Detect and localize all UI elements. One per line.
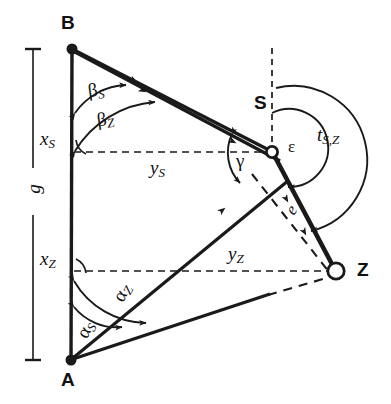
scale-bar-g <box>25 49 41 360</box>
label-y-s-sub: S <box>158 165 165 180</box>
label-beta-s: βS <box>86 78 105 104</box>
dashed-line-a-to-z-tail <box>268 277 330 295</box>
angle-arc-epsilon <box>272 109 328 187</box>
label-y-s: yS <box>150 157 165 181</box>
edge-A-to-Z <box>73 294 270 359</box>
label-x-s: xS <box>40 128 55 152</box>
label-x-z-sub: Z <box>48 256 55 271</box>
label-y-z-sub: Z <box>236 251 243 266</box>
label-beta-z: βZ <box>95 107 115 133</box>
point-marker-A <box>66 355 77 366</box>
point-label-a: A <box>61 369 75 391</box>
point-marker-B <box>67 44 78 55</box>
edge-A-to-S <box>73 180 289 358</box>
label-epsilon: ε <box>288 137 295 157</box>
label-y-z: yZ <box>228 243 244 267</box>
label-t-sz: tS,Z <box>317 124 339 148</box>
label-x-z: xZ <box>40 248 56 272</box>
label-baseline-g: g <box>23 177 45 201</box>
label-x-s-sub: S <box>48 136 55 151</box>
point-marker-Z <box>328 263 344 279</box>
survey-diagram <box>0 0 391 404</box>
angle-arcs-at-B <box>75 85 155 154</box>
figure-edges <box>71 49 333 360</box>
point-label-s: S <box>254 92 267 114</box>
point-label-b: B <box>61 12 75 34</box>
label-t-sz-sub: S,Z <box>322 132 339 147</box>
edge-AB-baseline <box>71 49 72 360</box>
ordinate-lines <box>74 48 330 271</box>
point-label-z: Z <box>357 259 369 281</box>
edge-B-to-Z <box>75 52 280 161</box>
point-marker-S <box>266 146 277 157</box>
edge-S-to-Z <box>275 157 333 266</box>
label-gamma: γ <box>236 150 244 172</box>
